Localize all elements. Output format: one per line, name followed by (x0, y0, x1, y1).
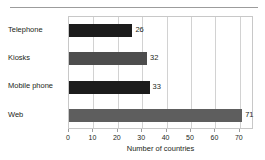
category-label-mobile-phone: Mobile phone (8, 81, 66, 91)
x-tick-mark-30 (141, 129, 142, 132)
bar-web[interactable] (69, 109, 242, 122)
bar-telephone[interactable] (69, 24, 132, 37)
x-tick-label-70: 70 (229, 133, 249, 142)
bar-value-kiosks: 32 (150, 51, 158, 64)
bar-row-mobile-phone: 33 (69, 74, 252, 102)
x-tick-mark-50 (190, 129, 191, 132)
x-tick-label-50: 50 (180, 133, 200, 142)
x-tick-mark-20 (117, 129, 118, 132)
x-tick-mark-0 (68, 129, 69, 132)
category-label-web: Web (8, 110, 66, 120)
bar-kiosks[interactable] (69, 52, 147, 65)
x-tick-mark-60 (214, 129, 215, 132)
x-tick-label-0: 0 (58, 133, 78, 142)
category-label-kiosks: Kiosks (8, 53, 66, 63)
x-tick-label-30: 30 (131, 133, 151, 142)
x-tick-label-10: 10 (82, 133, 102, 142)
plot-area: 26 32 33 71 (68, 16, 253, 129)
bar-value-mobile-phone: 33 (153, 80, 161, 93)
x-tick-mark-10 (92, 129, 93, 132)
x-tick-mark-70 (239, 129, 240, 132)
bar-value-telephone: 26 (135, 23, 143, 36)
x-tick-label-20: 20 (107, 133, 127, 142)
header-divider-rule (10, 7, 258, 8)
x-tick-label-40: 40 (156, 133, 176, 142)
bar-chart-figure: Telephone Kiosks Mobile phone Web 26 32 … (0, 0, 265, 160)
x-tick-label-60: 60 (204, 133, 224, 142)
bar-row-telephone: 26 (69, 17, 252, 45)
bar-row-kiosks: 32 (69, 45, 252, 73)
category-label-telephone: Telephone (8, 25, 66, 35)
bar-row-web: 71 (69, 102, 252, 130)
bar-value-web: 71 (245, 108, 253, 121)
x-axis-title: Number of countries (68, 144, 253, 154)
bar-mobile-phone[interactable] (69, 81, 150, 94)
x-tick-mark-40 (166, 129, 167, 132)
